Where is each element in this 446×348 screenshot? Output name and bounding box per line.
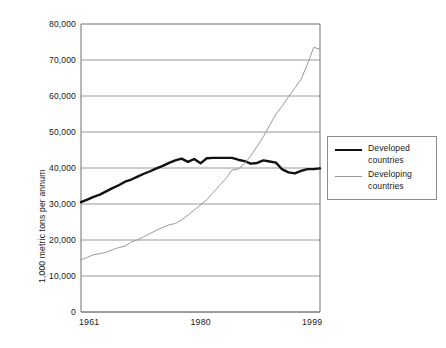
legend-label-developed-line1: Developed bbox=[368, 143, 410, 153]
legend-label-developed-line2: countries bbox=[368, 155, 404, 165]
legend-swatch-developed-icon bbox=[335, 149, 362, 152]
legend-item-developing: Developing countries bbox=[335, 169, 435, 195]
legend-item-developed: Developed countries bbox=[335, 143, 435, 169]
chart-container: 1,000 metric tons per annum 80,00070,000… bbox=[0, 0, 446, 348]
legend-label-developing: Developing countries bbox=[368, 169, 440, 192]
legend-label-developing-line1: Developing bbox=[368, 169, 412, 179]
series-line-developing bbox=[81, 47, 320, 259]
legend-swatch-developing-icon bbox=[335, 176, 362, 177]
legend-label-developing-line2: countries bbox=[368, 181, 404, 191]
data-series-layer bbox=[81, 47, 320, 259]
legend: Developed countries Developing countries bbox=[327, 136, 437, 200]
series-line-developed bbox=[81, 158, 320, 202]
legend-label-developed: Developed countries bbox=[368, 143, 440, 166]
